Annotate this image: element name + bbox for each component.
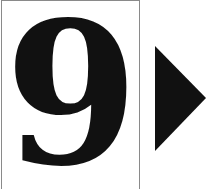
digit-label: 9 [4,0,138,188]
next-arrow-icon[interactable] [155,46,206,151]
number-card: 9 [1,0,140,189]
